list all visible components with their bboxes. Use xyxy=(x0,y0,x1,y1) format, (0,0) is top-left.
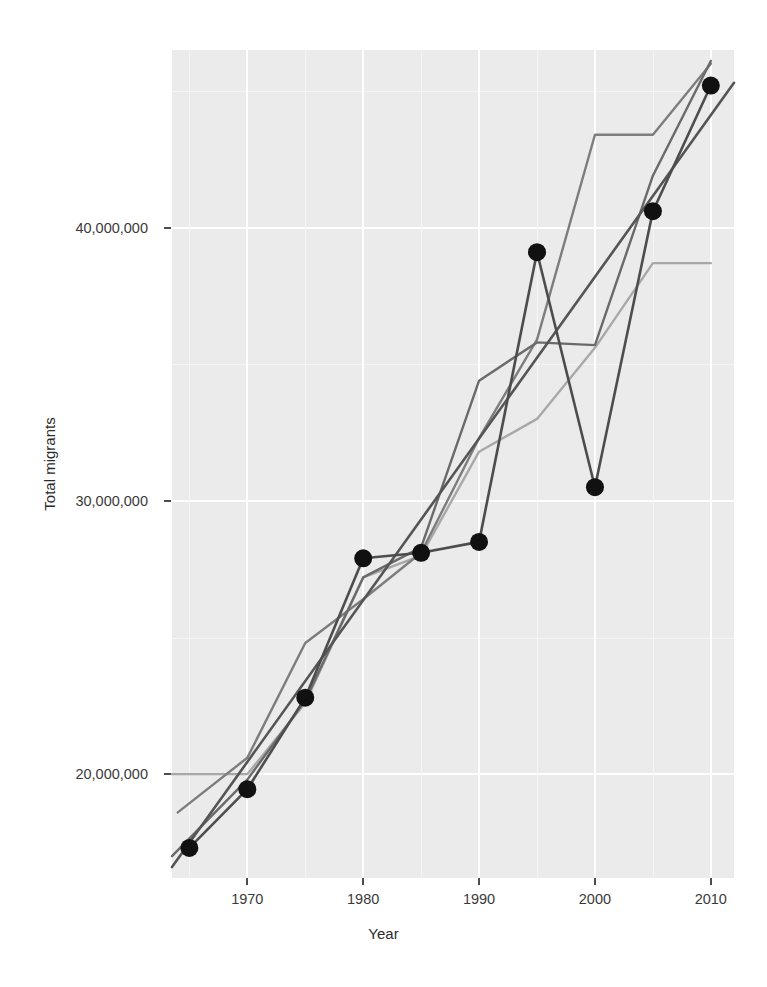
x-axis-tick-mark xyxy=(710,878,712,885)
y-axis-tick-mark xyxy=(164,227,171,229)
data-point-marker xyxy=(644,202,662,220)
y-axis-title-wrap: Total migrants xyxy=(40,50,58,878)
x-axis-tick-label: 1970 xyxy=(231,891,263,907)
y-axis-tick-mark xyxy=(164,500,171,502)
y-axis-title: Total migrants xyxy=(41,417,58,510)
y-axis-ticks: 20,000,00030,000,00040,000,000 xyxy=(0,0,164,987)
data-point-marker xyxy=(586,478,604,496)
y-axis-tick-label: 20,000,000 xyxy=(75,766,148,782)
y-axis-tick-mark xyxy=(164,773,171,775)
series-line xyxy=(172,263,711,774)
data-point-marker xyxy=(238,780,256,798)
series-line xyxy=(172,61,711,856)
x-axis-tick-mark xyxy=(362,878,364,885)
data-point-marker xyxy=(354,549,372,567)
y-axis-tick-label: 30,000,000 xyxy=(75,493,148,509)
plot-panel xyxy=(172,50,734,878)
chart-root: 20,000,00030,000,00040,000,000 Total mig… xyxy=(0,0,767,987)
x-axis-tick-label: 2000 xyxy=(579,891,611,907)
x-axis-tick-mark xyxy=(246,878,248,885)
x-axis-tick-label: 2010 xyxy=(695,891,727,907)
series-layer xyxy=(172,50,734,878)
data-point-marker xyxy=(180,839,198,857)
data-point-marker xyxy=(470,533,488,551)
x-axis-title: Year xyxy=(0,925,767,942)
data-point-marker xyxy=(702,77,720,95)
x-axis-tick-label: 1980 xyxy=(347,891,379,907)
data-point-marker xyxy=(412,544,430,562)
data-point-marker xyxy=(528,243,546,261)
x-axis-tick-label: 1990 xyxy=(463,891,495,907)
x-axis-tick-mark xyxy=(594,878,596,885)
data-point-marker xyxy=(296,689,314,707)
y-axis-tick-label: 40,000,000 xyxy=(75,220,148,236)
series-line xyxy=(178,64,711,813)
x-axis-tick-mark xyxy=(478,878,480,885)
series-line xyxy=(172,83,734,867)
